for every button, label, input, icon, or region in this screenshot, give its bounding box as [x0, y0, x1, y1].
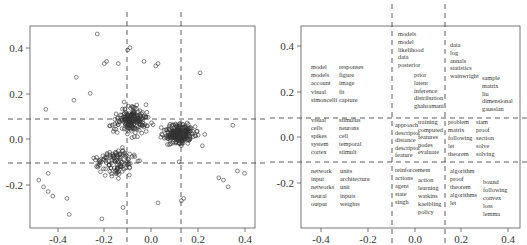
data-point	[103, 174, 107, 178]
left-x-tick: -0.2	[95, 233, 112, 245]
left-x-axis: -0.4 -0.2 0.0 0.2 0.4	[49, 228, 252, 245]
left-x-tick: 0.0	[144, 233, 158, 245]
left-x-tick: -0.4	[49, 233, 67, 245]
data-point	[111, 130, 115, 134]
data-point	[154, 64, 158, 68]
data-point	[100, 217, 104, 221]
cluster-word: singh	[395, 198, 409, 205]
cluster-word: features	[418, 133, 438, 140]
cluster-word: wainwright	[450, 72, 479, 79]
data-point	[156, 201, 160, 205]
figure: 0.4 0.2 0.0 -0.2 -0.4 -0.2 0.0 0.2 0.4	[0, 0, 527, 245]
cluster-word: sample	[482, 74, 500, 81]
cluster-word: neural	[311, 192, 327, 199]
cluster-word: reinforcement	[395, 166, 431, 173]
data-point	[114, 112, 118, 116]
cluster-word: cortex	[311, 148, 328, 155]
cluster-word: section	[476, 134, 495, 141]
cluster-word: figure	[339, 71, 354, 78]
cluster-word: data	[450, 41, 461, 48]
left-scatter-plot: 0.4 0.2 0.0 -0.2 -0.4 -0.2 0.0 0.2 0.4	[6, 12, 265, 245]
cluster-word: solve	[476, 142, 489, 149]
data-point	[128, 152, 132, 156]
cluster-word: units	[340, 167, 353, 174]
cluster-word: model	[398, 38, 414, 45]
cluster-word: annals	[450, 57, 467, 64]
cluster-word: algorithms	[450, 191, 477, 198]
cluster-word: inputs	[340, 192, 356, 199]
cluster-word: matrix	[448, 126, 465, 133]
data-point	[44, 107, 48, 111]
left-y-tick: 0.2	[9, 88, 23, 100]
cluster-word: network	[311, 167, 332, 174]
cluster-word: posterior	[398, 61, 421, 68]
cluster-word: training	[418, 118, 438, 125]
right-x-tick: -0.2	[359, 233, 376, 245]
cluster-word: action	[418, 176, 434, 183]
cluster-word: kaelbling	[418, 200, 442, 207]
data-point	[217, 176, 221, 180]
cluster-word: architecture	[340, 175, 370, 182]
cluster-word: unit	[340, 183, 350, 190]
cluster-word: system	[311, 140, 329, 147]
cluster-word: models	[311, 71, 330, 78]
left-x-tick: 0.2	[191, 233, 205, 245]
right-x-axis: -0.4 -0.2 0.0 0.2 0.4	[312, 228, 515, 245]
cluster-word: let	[448, 142, 455, 149]
cluster-word: cell	[339, 132, 348, 139]
data-point	[37, 178, 41, 182]
cluster-word: fit	[339, 88, 345, 95]
data-point	[231, 123, 235, 127]
data-point	[116, 62, 120, 66]
data-point	[198, 71, 202, 75]
left-y-axis: 0.4 0.2 0.0 -0.2	[6, 42, 30, 191]
data-point	[226, 185, 230, 189]
right-y-tick: 0.4	[280, 40, 294, 52]
cluster-word: models	[398, 30, 417, 37]
right-y-axis: 0.4 0.2 0.0 -0.2	[277, 40, 301, 189]
data-point	[133, 131, 137, 135]
data-point	[88, 91, 92, 95]
cluster-word: dimensional	[482, 97, 513, 104]
cluster-word: data	[398, 53, 409, 60]
cluster-word: stimulus	[339, 116, 361, 123]
cluster-word: stimuli	[339, 148, 357, 155]
cluster-word: statistics	[450, 64, 472, 71]
cluster-word: loss	[483, 202, 493, 209]
left-y-tick: 0.0	[9, 133, 23, 145]
data-point	[182, 197, 186, 201]
data-point	[121, 206, 125, 210]
cluster-word: matrix	[482, 82, 499, 89]
cluster-word: ghahramani	[414, 102, 444, 109]
cluster-word: problem	[448, 118, 469, 125]
data-point	[72, 98, 76, 102]
data-point	[142, 60, 146, 64]
data-point	[117, 177, 121, 181]
cluster-word: image	[339, 79, 355, 86]
data-point	[126, 48, 130, 52]
data-point	[145, 110, 149, 114]
cluster-word: liu	[482, 90, 489, 97]
right-y-tick: 0.2	[280, 86, 294, 98]
cluster-word: distribution	[414, 94, 444, 101]
cluster-word: following	[483, 186, 508, 193]
cluster-word: log	[450, 49, 459, 56]
cluster-word: let	[450, 199, 457, 206]
cluster-word: simoncelli	[311, 96, 337, 103]
cluster-word: agent	[395, 182, 409, 189]
data-point	[130, 136, 134, 140]
left-y-tick: 0.4	[9, 42, 23, 54]
data-point	[135, 103, 139, 107]
right-y-tick: -0.2	[277, 177, 294, 189]
right-y-tick: 0.0	[280, 131, 294, 143]
cluster-word: responses	[339, 63, 364, 70]
data-point	[51, 194, 55, 198]
data-point	[115, 131, 119, 135]
data-point	[144, 130, 148, 134]
cluster-word: input	[311, 175, 324, 182]
data-point	[193, 125, 197, 129]
data-point	[156, 62, 160, 66]
data-point	[127, 173, 131, 177]
cluster-word: nodes	[418, 141, 433, 148]
cluster-word: theorem	[448, 150, 469, 157]
